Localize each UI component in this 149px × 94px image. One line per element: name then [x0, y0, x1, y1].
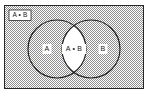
venn-diagram-figure: A A • B B A • B — [0, 0, 149, 94]
corner-title-label: A • B — [9, 10, 31, 21]
label-set-b-text: B — [101, 45, 106, 52]
label-intersection: A • B — [62, 44, 86, 54]
label-set-b: B — [99, 44, 108, 54]
label-intersection-text: A • B — [66, 45, 82, 52]
corner-title-text: A • B — [12, 11, 27, 18]
label-set-a-text: A — [45, 45, 50, 52]
label-set-a: A — [43, 44, 52, 54]
venn-diagram-canvas: A A • B B A • B — [0, 0, 149, 94]
